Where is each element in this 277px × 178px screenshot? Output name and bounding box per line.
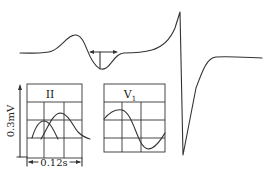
lead-ii-label: II xyxy=(46,88,55,101)
ecg-diagram: II 0.3mV 0.12s V1 xyxy=(0,0,277,178)
lead-v1-p-wave xyxy=(104,110,165,149)
voltage-scale: 0.3mV xyxy=(5,84,27,157)
lead-ii-p-wave-hump-2 xyxy=(41,113,90,139)
lead-ii-p-wave-hump-1 xyxy=(32,121,58,139)
lead-v1-label: V1 xyxy=(123,88,136,103)
lead-ii-panel: II xyxy=(27,84,90,158)
time-scale-label: 0.12s xyxy=(40,157,67,168)
lead-v1-panel: V1 xyxy=(104,84,165,152)
time-scale: 0.12s xyxy=(27,157,82,168)
voltage-scale-label: 0.3mV xyxy=(5,104,16,137)
